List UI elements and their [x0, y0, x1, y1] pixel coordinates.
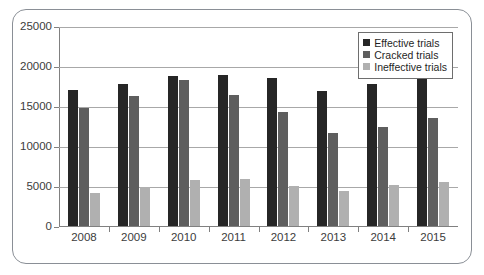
bar[interactable]	[229, 95, 239, 226]
bar[interactable]	[267, 78, 277, 226]
x-axis-tick-label: 2013	[308, 232, 358, 244]
bar-chart-figure: 0500010000150002000025000 Effective tria…	[0, 0, 484, 275]
x-axis-tick-label: 2008	[59, 232, 109, 244]
bar-group	[109, 27, 159, 226]
bar[interactable]	[240, 179, 250, 226]
bar-group	[209, 27, 259, 226]
legend-swatch-icon	[363, 39, 370, 46]
bar[interactable]	[79, 108, 89, 226]
bar[interactable]	[218, 75, 228, 226]
x-axis-tick-label: 2014	[358, 232, 408, 244]
legend-item-label: Ineffective trials	[374, 62, 447, 73]
y-axis-tick-label: 0	[46, 221, 52, 233]
chart-legend: Effective trialsCracked trialsIneffectiv…	[358, 32, 453, 79]
bar[interactable]	[190, 180, 200, 226]
legend-item[interactable]: Cracked trials	[363, 50, 447, 61]
x-axis-tick-label: 2010	[159, 232, 209, 244]
bar[interactable]	[417, 68, 427, 226]
y-axis-tick-mark	[54, 227, 59, 228]
x-axis-tick-label: 2011	[209, 232, 259, 244]
legend-item-label: Effective trials	[374, 38, 439, 49]
y-axis-tick-label: 25000	[20, 21, 52, 33]
bar-group	[259, 27, 309, 226]
bar[interactable]	[328, 133, 338, 226]
bar[interactable]	[289, 186, 299, 226]
bar-group	[308, 27, 358, 226]
legend-swatch-icon	[363, 51, 370, 58]
bar[interactable]	[339, 191, 349, 226]
legend-item[interactable]: Effective trials	[363, 38, 447, 49]
bar[interactable]	[378, 127, 388, 226]
bar[interactable]	[168, 76, 178, 226]
x-axis-tick-label: 2012	[259, 232, 309, 244]
y-axis-tick-label: 15000	[20, 101, 52, 113]
x-axis-tick-label: 2015	[408, 232, 458, 244]
y-axis-tick-label: 10000	[20, 141, 52, 153]
bar[interactable]	[428, 118, 438, 226]
bar[interactable]	[278, 112, 288, 226]
x-axis-labels: 20082009201020112012201320142015	[59, 232, 458, 244]
bar-group	[159, 27, 209, 226]
legend-item-label: Cracked trials	[374, 50, 438, 61]
bar[interactable]	[140, 187, 150, 226]
bar[interactable]	[439, 182, 449, 226]
x-axis-tick-label: 2009	[109, 232, 159, 244]
bar[interactable]	[179, 80, 189, 226]
bar[interactable]	[389, 185, 399, 226]
plot-area: 0500010000150002000025000 Effective tria…	[59, 27, 458, 227]
y-axis-tick-label: 5000	[26, 181, 52, 193]
bar[interactable]	[118, 84, 128, 226]
legend-item[interactable]: Ineffective trials	[363, 62, 447, 73]
bar-group	[59, 27, 109, 226]
bar[interactable]	[317, 91, 327, 226]
y-axis-tick-label: 20000	[20, 61, 52, 73]
bar[interactable]	[90, 193, 100, 226]
legend-swatch-icon	[363, 63, 370, 70]
bar[interactable]	[367, 84, 377, 226]
bar[interactable]	[129, 96, 139, 226]
bar[interactable]	[68, 90, 78, 226]
